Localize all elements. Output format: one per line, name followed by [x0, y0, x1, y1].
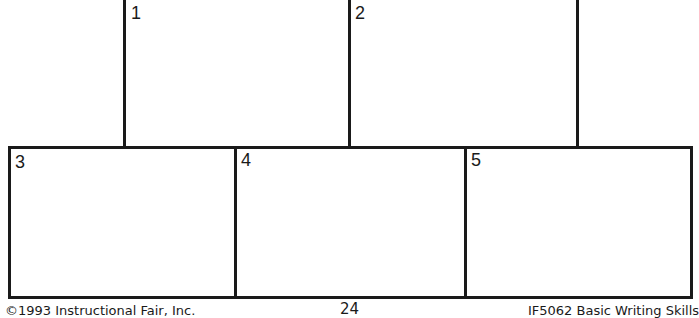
box-row-right-border	[690, 146, 693, 299]
top-panel-middle-divider	[348, 0, 351, 149]
footer-copyright: ©1993 Instructional Fair, Inc.	[5, 303, 195, 318]
box-5-number: 5	[471, 151, 481, 169]
box-4-number: 4	[241, 151, 251, 169]
box-3-number: 3	[15, 153, 25, 171]
panel-1-number: 1	[131, 4, 141, 22]
box-row-left-border	[8, 146, 11, 299]
panel-2-number: 2	[355, 4, 365, 22]
box-4-5-divider	[464, 146, 467, 299]
footer-book-title: IF5062 Basic Writing Skills	[528, 303, 699, 318]
box-row-bottom-border	[8, 296, 693, 299]
top-panel-right-divider	[576, 0, 579, 149]
top-panel-left-divider	[123, 0, 126, 149]
box-3-4-divider	[234, 146, 237, 299]
footer-page-number: 24	[340, 301, 359, 317]
